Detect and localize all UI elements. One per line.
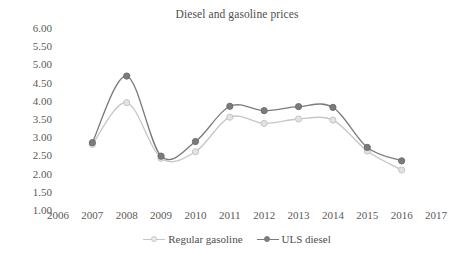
y-axis-tick-label: 2.00 bbox=[0, 168, 52, 180]
legend-label: ULS diesel bbox=[282, 233, 331, 245]
x-axis: 2006200720082009201020112012201320142015… bbox=[0, 208, 474, 226]
x-axis-tick-label: 2017 bbox=[416, 208, 456, 222]
y-axis-tick-label: 3.00 bbox=[0, 131, 52, 143]
y-axis-tick-label: 2.50 bbox=[0, 149, 52, 161]
data-point-marker bbox=[192, 138, 198, 144]
series-line-regular-gasoline bbox=[92, 103, 401, 170]
data-point-marker bbox=[261, 120, 267, 126]
y-axis-tick-label: 3.50 bbox=[0, 113, 52, 125]
y-axis-tick-label: 5.00 bbox=[0, 58, 52, 70]
y-axis: 6.005.505.004.504.003.503.002.502.001.50… bbox=[0, 26, 52, 212]
chart-title: Diesel and gasoline prices bbox=[0, 8, 474, 20]
data-point-marker bbox=[399, 167, 405, 173]
y-axis-tick-label: 4.50 bbox=[0, 77, 52, 89]
data-point-marker bbox=[261, 108, 267, 114]
data-point-marker bbox=[158, 153, 164, 159]
data-point-marker bbox=[399, 158, 405, 164]
data-point-marker bbox=[330, 117, 336, 123]
y-axis-tick-label: 5.50 bbox=[0, 40, 52, 52]
data-point-marker bbox=[124, 73, 130, 79]
legend-marker-icon bbox=[143, 234, 165, 244]
y-axis-tick-label: 4.00 bbox=[0, 95, 52, 107]
legend-label: Regular gasoline bbox=[168, 233, 242, 245]
data-point-marker bbox=[227, 114, 233, 120]
legend-item[interactable]: ULS diesel bbox=[257, 233, 331, 245]
chart-legend: Regular gasolineULS diesel bbox=[0, 233, 474, 245]
y-axis-tick-label: 1.50 bbox=[0, 186, 52, 198]
line-chart-svg bbox=[58, 28, 436, 210]
data-point-marker bbox=[192, 149, 198, 155]
chart-container: Diesel and gasoline prices 6.005.505.004… bbox=[0, 0, 474, 261]
data-point-marker bbox=[364, 144, 370, 150]
data-point-marker bbox=[295, 104, 301, 110]
data-point-marker bbox=[124, 100, 130, 106]
plot-area bbox=[58, 28, 436, 210]
data-point-marker bbox=[295, 116, 301, 122]
data-point-marker bbox=[330, 104, 336, 110]
y-axis-tick-label: 6.00 bbox=[0, 22, 52, 34]
data-point-marker bbox=[89, 140, 95, 146]
data-point-marker bbox=[227, 103, 233, 109]
legend-marker-icon bbox=[257, 234, 279, 244]
legend-item[interactable]: Regular gasoline bbox=[143, 233, 242, 245]
